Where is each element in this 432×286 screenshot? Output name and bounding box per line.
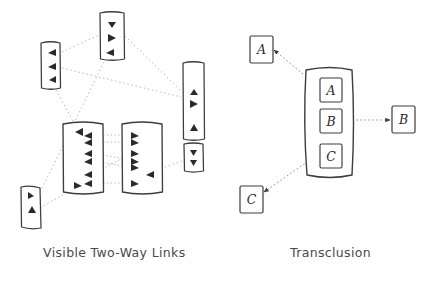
document-right-tall[interactable] xyxy=(183,62,205,141)
figure-root: A B C A B C Visible xyxy=(0,0,432,286)
document-center-left[interactable] xyxy=(63,122,104,194)
ext-box-a-label: A xyxy=(256,42,266,57)
ext-box-c-label: C xyxy=(247,192,257,207)
inner-box-a-label: A xyxy=(325,83,335,98)
ext-box-b[interactable]: B xyxy=(392,106,415,133)
panel-transclusion: A B C A B C xyxy=(240,36,415,213)
inner-box-c[interactable]: C xyxy=(320,144,342,168)
document-outline xyxy=(184,143,204,172)
inner-box-a[interactable]: A xyxy=(320,78,342,102)
document-outline xyxy=(41,42,61,90)
ext-box-a[interactable]: A xyxy=(250,36,273,63)
inner-box-b-label: B xyxy=(325,114,335,129)
document-top-center[interactable] xyxy=(100,12,125,61)
document-outline xyxy=(21,186,41,229)
link-line-upperleft-topcenter[interactable] xyxy=(62,35,99,52)
ext-box-c[interactable]: C xyxy=(240,186,263,213)
panel-visible-two-way-links xyxy=(21,12,205,229)
link-line-upperleft-righttall[interactable] xyxy=(62,68,181,97)
link-line-topcenter-centerleft[interactable] xyxy=(74,62,104,123)
link-line-topcenter-righttall[interactable] xyxy=(125,36,181,91)
document-outline xyxy=(63,122,104,194)
inner-box-b[interactable]: B xyxy=(320,109,342,133)
caption-visible-two-way-links: Visible Two-Way Links xyxy=(43,245,186,260)
document-upper-left[interactable] xyxy=(41,42,61,90)
diagram-canvas: A B C A B C xyxy=(0,0,432,286)
ext-box-b-label: B xyxy=(398,112,408,127)
inner-box-c-label: C xyxy=(326,149,336,164)
link-line-upperleft-centerleft[interactable] xyxy=(56,90,74,123)
document-lower-left[interactable] xyxy=(21,186,41,229)
document-right-small[interactable] xyxy=(184,143,204,172)
caption-transclusion: Transclusion xyxy=(290,245,371,260)
document-center-right[interactable] xyxy=(122,122,163,194)
document-outline xyxy=(122,122,163,194)
